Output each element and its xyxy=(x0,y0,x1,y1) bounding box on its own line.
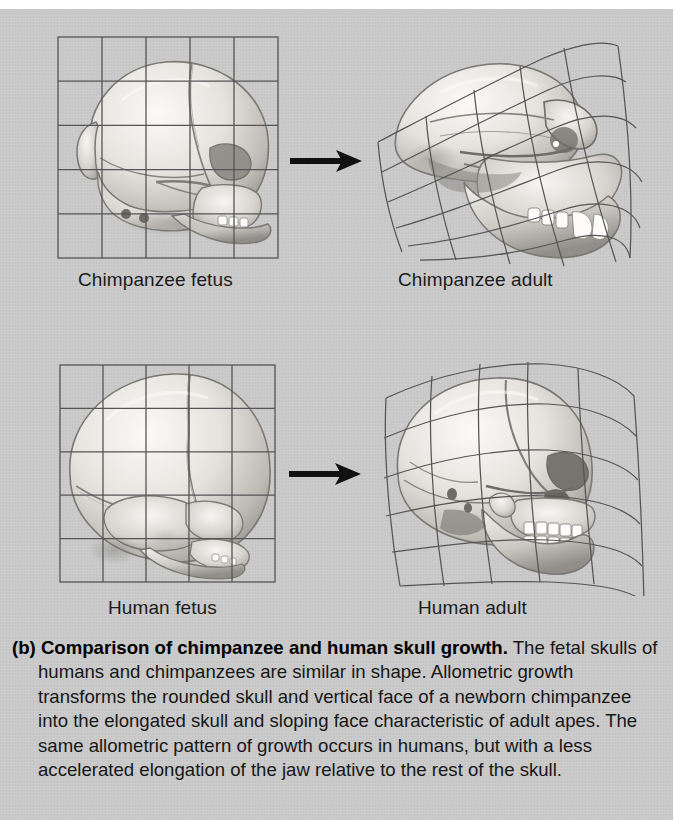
human-adult-illustration xyxy=(378,358,646,596)
panel-chimpanzee-fetus xyxy=(52,30,288,268)
chimp-fetus-skull-art xyxy=(77,62,271,244)
caption-title: Comparison of chimpanzee and human skull… xyxy=(41,637,508,658)
panel-chimpanzee-adult xyxy=(368,32,650,272)
label-human-fetus: Human fetus xyxy=(108,597,217,619)
right-arrow-icon-chimpanzee xyxy=(288,148,366,174)
right-arrow-icon-human xyxy=(287,461,365,487)
human-adult-skull-art xyxy=(397,378,595,574)
caption-body: The fetal skulls of humans and chimpanze… xyxy=(38,637,657,780)
chimpanzee-adult-illustration xyxy=(368,32,650,272)
figure-container: Chimpanzee fetus Chimpanzee adult Human … xyxy=(0,0,673,820)
label-chimpanzee-fetus: Chimpanzee fetus xyxy=(78,269,233,291)
label-chimpanzee-adult: Chimpanzee adult xyxy=(398,269,553,291)
panel-human-fetus xyxy=(54,358,286,594)
human-fetus-skull-art xyxy=(70,374,270,579)
chimpanzee-fetus-illustration xyxy=(52,30,288,268)
label-human-adult: Human adult xyxy=(418,597,527,619)
caption-marker: (b) xyxy=(12,637,36,658)
panel-human-adult xyxy=(378,358,646,596)
human-fetus-illustration xyxy=(54,358,286,594)
figure-caption: (b) Comparison of chimpanzee and human s… xyxy=(12,636,662,782)
